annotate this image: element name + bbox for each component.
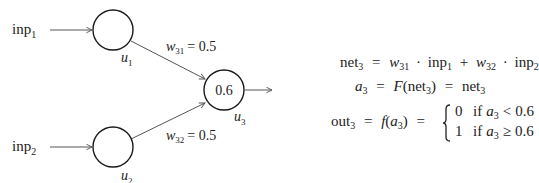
case-if: if [473,103,482,119]
activation-symbol: a [355,78,363,94]
case-row-1: 1ifa3≥0.6 [455,123,534,141]
input-1-subscript: 1 [447,61,452,72]
equals-sign: = [445,78,453,94]
input-2: inp [514,54,533,70]
case-row-0: 0ifa3<0.6 [455,103,534,121]
net-rhs: net [462,78,480,94]
equals-sign: = [364,113,372,129]
case-var: a [486,103,494,119]
case-value: 1 [455,123,473,140]
equals-sign: = [417,113,425,129]
weight-w32: w [476,54,486,70]
case-threshold: 0.6 [515,123,534,139]
output-symbol: out [331,113,350,129]
output-subscript: 3 [350,120,355,131]
multiply-dot: · [416,54,421,70]
case-value: 0 [455,103,473,120]
neural-network-diagram: 0.6 inp1 inp2 u1 u2 u3 w31= 0.5 w32= 0.5 [0,0,300,183]
weight-label-w31: w31= 0.5 [166,39,216,56]
net-arg: net [408,78,426,94]
curly-brace-icon [442,104,452,142]
neuron-label-u2: u2 [121,168,133,183]
case-threshold: 0.6 [515,103,534,119]
neuron-u2 [93,127,133,167]
neuron-u3-value: 0.6 [215,83,233,98]
paren-close: ) [403,113,408,129]
equation-activation: a3 = F(net3) = net3 [355,78,485,96]
activation-arg: a [390,113,398,129]
weight-w31-subscript: 31 [399,61,409,72]
input-1: inp [428,54,447,70]
input-label-2: inp2 [12,138,36,157]
activation-subscript: 3 [363,85,368,96]
input-2-subscript: 2 [534,61,539,72]
plus-sign: + [460,54,468,70]
case-operator: < [503,103,511,119]
net-subscript: 3 [358,61,363,72]
case-var-subscript: 3 [494,110,499,121]
neuron-label-u3: u3 [234,109,246,127]
neuron-label-u1: u1 [121,50,133,68]
activation-function: F [393,78,402,94]
case-if: if [473,123,482,139]
case-var: a [486,123,494,139]
input-label-1: inp1 [12,21,36,40]
neuron-u1 [93,10,133,50]
weight-label-w32: w32= 0.5 [166,128,216,145]
net-rhs-subscript: 3 [480,85,485,96]
equation-net: net3 = w31 · inp1 + w32 · inp2 [340,54,539,72]
case-var-subscript: 3 [494,130,499,141]
net-symbol: net [340,54,358,70]
equation-output: out3 = f(a3) = 0ifa3<0.6 1ifa3≥0.6 [331,102,531,146]
paren-close: ) [431,78,436,94]
weight-w32-subscript: 32 [486,61,496,72]
weight-w31: w [389,54,399,70]
multiply-dot: · [503,54,508,70]
case-operator: ≥ [503,123,511,139]
equals-sign: = [376,78,384,94]
equals-sign: = [372,54,380,70]
